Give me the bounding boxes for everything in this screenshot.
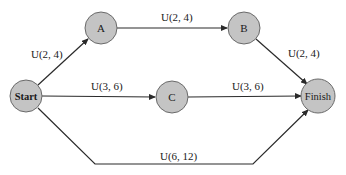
edge-label-start-a: U(2, 4) [31,48,63,61]
edge-start-c [42,96,155,97]
edge-label-b-finish: U(2, 4) [288,47,320,60]
node-b: B [228,12,260,44]
node-c-label: C [168,91,175,103]
node-c: C [156,81,188,113]
edge-b-finish [256,39,307,84]
node-b-label: B [240,22,247,34]
node-start: Start [10,80,42,112]
edge-label-start-finish: U(6, 12) [160,150,198,163]
node-finish-label: Finish [305,91,332,102]
node-start-label: Start [15,91,38,102]
edge-label-a-b: U(2, 4) [161,11,193,24]
node-finish: Finish [301,79,335,113]
edge-c-finish [188,96,301,97]
node-a-label: A [97,22,105,34]
activity-network-diagram: U(2, 4) U(2, 4) U(2, 4) U(3, 6) U(3, 6) … [0,0,346,175]
edge-label-start-c: U(3, 6) [91,80,123,93]
node-a: A [85,12,117,44]
edge-label-c-finish: U(3, 6) [232,80,264,93]
edge-start-a [38,39,88,85]
